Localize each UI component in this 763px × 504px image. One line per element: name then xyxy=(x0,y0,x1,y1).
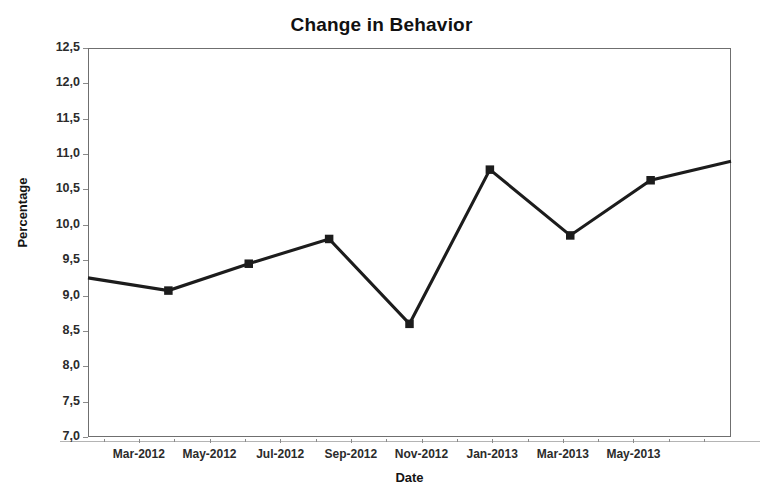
x-tick-label: May-2013 xyxy=(593,447,673,461)
x-tick-mark-minor xyxy=(633,439,634,442)
x-tick-mark-minor xyxy=(139,439,140,442)
x-tick-mark-minor xyxy=(245,439,246,442)
y-tick-label: 11,5 xyxy=(34,111,80,125)
x-tick-mark-minor xyxy=(351,439,352,442)
y-tick-label: 8,0 xyxy=(34,358,80,372)
x-tick-mark-minor xyxy=(104,439,105,442)
plot-area xyxy=(88,48,731,437)
x-tick-label: Nov-2012 xyxy=(382,447,462,461)
x-tick-mark-minor xyxy=(492,439,493,442)
x-tick-mark-minor xyxy=(598,439,599,442)
x-tick-mark-minor xyxy=(280,439,281,442)
y-tick-label: 10,0 xyxy=(34,217,80,231)
y-tick-label: 7,5 xyxy=(34,394,80,408)
y-tick-mark xyxy=(83,331,88,332)
x-tick-mark-minor xyxy=(669,439,670,442)
x-tick-label: Jan-2013 xyxy=(452,447,532,461)
y-tick-mark xyxy=(83,260,88,261)
y-axis-title: Percentage xyxy=(15,153,30,273)
x-tick-label: Jul-2012 xyxy=(240,447,320,461)
x-axis-title: Date xyxy=(88,470,731,485)
y-tick-mark xyxy=(83,119,88,120)
x-tick-mark-minor xyxy=(316,439,317,442)
y-tick-label: 8,5 xyxy=(34,323,80,337)
y-tick-mark xyxy=(83,437,88,438)
x-tick-label: Sep-2012 xyxy=(311,447,391,461)
y-tick-mark xyxy=(83,154,88,155)
y-tick-mark xyxy=(83,48,88,49)
y-tick-label: 12,0 xyxy=(34,75,80,89)
y-tick-mark xyxy=(83,225,88,226)
y-tick-label: 9,0 xyxy=(34,288,80,302)
x-tick-mark-minor xyxy=(174,439,175,442)
y-tick-mark xyxy=(83,366,88,367)
x-tick-mark-minor xyxy=(704,439,705,442)
x-tick-label: Mar-2012 xyxy=(99,447,179,461)
y-tick-mark xyxy=(83,296,88,297)
chart-figure: Change in Behavior Percentage 12,512,011… xyxy=(0,0,763,504)
x-tick-mark-minor xyxy=(528,439,529,442)
x-tick-mark-minor xyxy=(457,439,458,442)
y-tick-label: 9,5 xyxy=(34,252,80,266)
y-tick-mark xyxy=(83,83,88,84)
x-tick-mark-minor xyxy=(386,439,387,442)
x-tick-label: May-2012 xyxy=(170,447,250,461)
chart-title: Change in Behavior xyxy=(0,14,763,36)
x-tick-mark-minor xyxy=(563,439,564,442)
x-tick-label: Mar-2013 xyxy=(523,447,603,461)
y-tick-label: 11,0 xyxy=(34,146,80,160)
x-axis-baseline xyxy=(60,441,760,442)
y-tick-mark xyxy=(83,189,88,190)
y-tick-mark xyxy=(83,402,88,403)
y-tick-label: 12,5 xyxy=(34,40,80,54)
x-tick-mark-minor xyxy=(422,439,423,442)
y-tick-label: 7,0 xyxy=(34,429,80,443)
x-tick-mark-minor xyxy=(210,439,211,442)
y-tick-label: 10,5 xyxy=(34,181,80,195)
